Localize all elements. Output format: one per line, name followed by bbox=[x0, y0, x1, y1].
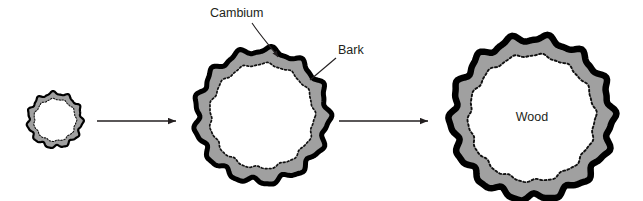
cambium-label: Cambium bbox=[210, 6, 264, 20]
wood-label: Wood bbox=[516, 110, 548, 124]
bark-leader-line bbox=[310, 58, 336, 80]
bark-label: Bark bbox=[338, 43, 364, 57]
stage-1-sapling bbox=[27, 91, 84, 148]
stage-3-mature-tree: Wood bbox=[448, 35, 616, 201]
tree-growth-diagram: Wood Cambium Bark bbox=[0, 0, 643, 201]
stage-2-young-tree bbox=[194, 46, 332, 184]
